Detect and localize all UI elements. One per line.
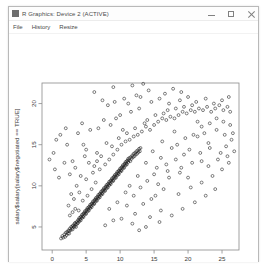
data-point: [188, 148, 191, 151]
data-point: [78, 191, 81, 194]
data-point: [72, 198, 75, 201]
data-point: [196, 135, 199, 138]
data-point: [153, 124, 156, 127]
data-point: [215, 128, 218, 131]
data-points: [48, 82, 236, 240]
data-point: [68, 173, 71, 176]
data-point: [63, 161, 66, 164]
data-point: [208, 122, 211, 125]
data-point: [202, 109, 205, 112]
data-point: [143, 122, 146, 125]
minimize-icon[interactable]: [207, 10, 216, 19]
data-point: [93, 165, 96, 168]
data-point: [71, 160, 74, 163]
scatter-plot: 05101520255101520salary$incentive[salary…: [9, 34, 258, 262]
data-point: [90, 188, 93, 191]
data-point: [120, 217, 123, 220]
data-point: [180, 166, 183, 169]
data-point: [104, 163, 107, 166]
data-point: [215, 117, 218, 120]
window-title: R Graphics: Device 2 (ACTIVE): [22, 11, 109, 17]
data-point: [210, 110, 213, 113]
data-point: [225, 145, 228, 148]
close-icon[interactable]: [247, 10, 256, 19]
x-tick-label: 0: [50, 255, 54, 262]
data-point: [53, 168, 56, 171]
app-icon: [12, 10, 19, 17]
menu-item-history[interactable]: History: [32, 24, 51, 30]
data-point: [142, 202, 145, 205]
data-point: [67, 204, 70, 207]
data-point: [119, 114, 122, 117]
data-point: [58, 176, 61, 179]
data-point: [181, 110, 184, 113]
data-point: [70, 193, 73, 196]
data-point: [196, 120, 199, 123]
data-point: [214, 107, 217, 110]
data-point: [166, 109, 169, 112]
data-point: [218, 104, 221, 107]
data-point: [128, 184, 131, 187]
maximize-icon[interactable]: [227, 10, 236, 19]
data-point: [104, 224, 107, 227]
data-point: [71, 211, 74, 214]
data-point: [113, 100, 116, 103]
data-point: [75, 184, 78, 187]
data-point: [121, 128, 124, 131]
data-point: [155, 166, 158, 169]
data-point: [131, 222, 134, 225]
menu-item-file[interactable]: File: [13, 24, 23, 30]
y-axis-title: salary$salary[salary$negotiated == TRUE]: [13, 108, 20, 224]
y-tick-label: 20: [30, 100, 37, 107]
data-point: [153, 173, 156, 176]
y-tick-label: 10: [30, 182, 37, 189]
data-point: [89, 128, 92, 131]
data-point: [101, 99, 104, 102]
data-point: [173, 130, 176, 133]
data-point: [181, 207, 184, 210]
data-point: [169, 115, 172, 118]
window-titlebar[interactable]: R Graphics: Device 2 (ACTIVE): [9, 7, 258, 21]
data-point: [85, 148, 88, 151]
data-point: [82, 143, 85, 146]
data-point: [180, 91, 183, 94]
data-point: [96, 151, 99, 154]
data-point: [144, 125, 147, 128]
data-point: [229, 124, 232, 127]
data-point: [170, 147, 173, 150]
data-point: [127, 102, 130, 105]
menu-bar: File History Resize: [9, 21, 258, 34]
data-point: [150, 198, 153, 201]
data-point: [151, 150, 154, 153]
data-point: [106, 104, 109, 107]
y-tick-label: 5: [30, 225, 37, 229]
x-tick-label: 15: [151, 255, 158, 262]
data-point: [144, 226, 147, 229]
y-tick-label: 15: [30, 141, 37, 148]
data-point: [123, 97, 126, 100]
data-point: [226, 155, 229, 158]
plot-area: 05101520255101520salary$incentive[salary…: [9, 34, 258, 262]
data-point: [197, 107, 200, 110]
data-point: [200, 181, 203, 184]
data-point: [178, 99, 181, 102]
data-point: [105, 142, 108, 145]
data-point: [165, 119, 168, 122]
data-point: [74, 166, 77, 169]
data-point: [165, 163, 168, 166]
data-point: [115, 117, 118, 120]
menu-item-resize[interactable]: Resize: [59, 24, 77, 30]
data-point: [128, 138, 131, 141]
x-axis: 0510152025: [50, 250, 226, 262]
data-point: [124, 140, 127, 143]
data-point: [178, 171, 181, 174]
data-point: [144, 161, 147, 164]
data-point: [229, 110, 232, 113]
data-point: [184, 137, 187, 140]
data-point: [109, 124, 112, 127]
x-tick-label: 10: [117, 255, 124, 262]
data-point: [116, 148, 119, 151]
data-point: [170, 214, 173, 217]
data-point: [193, 201, 196, 204]
data-point: [130, 110, 133, 113]
